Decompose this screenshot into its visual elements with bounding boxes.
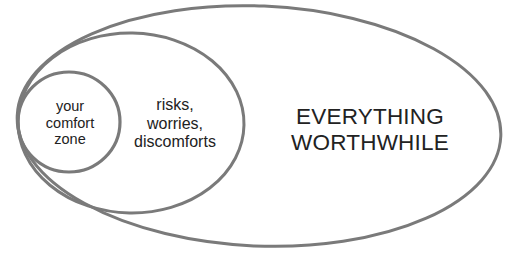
risks-line-3: discomforts xyxy=(125,133,225,152)
comfort-zone-label: your comfort zone xyxy=(30,98,110,148)
risks-line-2: worries, xyxy=(125,115,225,134)
risks-line-1: risks, xyxy=(125,96,225,115)
worthwhile-line-2: WORTHWHILE xyxy=(270,130,470,156)
worthwhile-line-1: EVERYTHING xyxy=(270,104,470,130)
risks-label: risks, worries, discomforts xyxy=(125,96,225,152)
comfort-zone-line-2: comfort xyxy=(30,115,110,132)
comfort-zone-line-3: zone xyxy=(30,131,110,148)
everything-worthwhile-label: EVERYTHING WORTHWHILE xyxy=(270,104,470,156)
comfort-zone-line-1: your xyxy=(30,98,110,115)
